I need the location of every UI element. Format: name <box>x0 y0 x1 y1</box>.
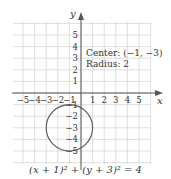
equation: (x + 1)² + (y + 3)² = 4 <box>0 164 171 175</box>
y-axis-label: y <box>69 8 76 19</box>
x-tick-label: 2 <box>101 95 106 105</box>
coordinate-plane: x y −5−4−3−2−11234554321−1−2−3−4−5 Cente… <box>0 0 171 179</box>
x-tick-label: 4 <box>125 95 130 105</box>
y-tick-label: −4 <box>65 134 78 144</box>
y-tick-label: −3 <box>65 123 78 133</box>
radius-annotation: Radius: 2 <box>86 59 129 69</box>
x-tick-label: 1 <box>90 95 95 105</box>
y-tick-label: −2 <box>65 111 78 121</box>
x-axis-label: x <box>157 95 163 106</box>
y-tick-label: 4 <box>73 42 78 52</box>
y-tick-label: 5 <box>73 30 78 40</box>
y-tick-label: 1 <box>73 76 78 86</box>
y-tick-label: 3 <box>73 53 78 63</box>
center-annotation: Center: (−1, −3) <box>86 48 162 58</box>
x-tick-label: 5 <box>136 95 141 105</box>
y-axis-arrow-icon <box>78 12 84 20</box>
x-tick-label: 3 <box>113 95 118 105</box>
y-tick-label: 2 <box>73 65 78 75</box>
